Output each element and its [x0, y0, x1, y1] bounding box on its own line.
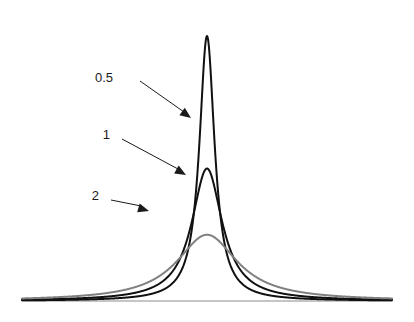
annotation-arrowhead-1 — [174, 166, 186, 175]
annotation-2: 2 — [92, 188, 149, 212]
annotation-0-5: 0.5 — [95, 70, 191, 118]
annotation-arrowhead-2 — [137, 204, 149, 213]
annotation-leader-line-0-5 — [140, 81, 184, 112]
annotation-leader-line-2 — [111, 200, 141, 206]
annotation-label-0-5: 0.5 — [95, 70, 113, 85]
annotations-group: 0.512 — [92, 70, 191, 212]
annotation-arrowhead-0-5 — [179, 108, 191, 118]
density-curve-2 — [22, 235, 392, 299]
annotation-1: 1 — [103, 127, 186, 175]
annotation-leader-line-1 — [122, 139, 178, 169]
density-curves-group — [22, 36, 392, 300]
annotation-label-2: 2 — [92, 188, 99, 203]
annotation-label-1: 1 — [103, 127, 110, 142]
density-plot-canvas: 0.512 — [0, 0, 414, 322]
chart-figure: 0.512 — [0, 0, 414, 322]
